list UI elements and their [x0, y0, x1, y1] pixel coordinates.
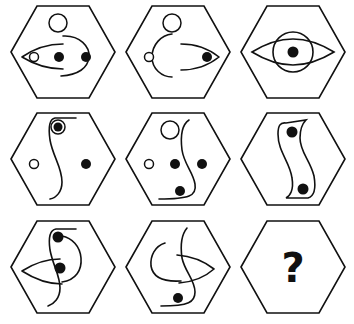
filled-dot-icon: [173, 293, 183, 303]
filled-dot-icon: [55, 263, 66, 274]
hexagon-cell-r2c1: [10, 112, 116, 207]
hexagon-cell-r3c2: [125, 220, 231, 315]
open-circle-icon: [161, 121, 179, 139]
filled-dot-icon: [287, 127, 298, 138]
hexagon-cell-r1c3: [240, 5, 346, 100]
small-open-circle-icon: [145, 53, 154, 62]
open-circle-icon: [163, 14, 181, 32]
filled-dot-icon: [54, 123, 63, 132]
hexagon-cell-r2c3: [240, 112, 346, 207]
hexagon-cell-r2c2: [125, 112, 231, 207]
question-mark-icon: ?: [240, 220, 346, 315]
filled-dot-icon: [54, 52, 64, 62]
hexagon-cell-r3c3-answer[interactable]: ?: [240, 220, 346, 315]
filled-dot-icon: [175, 186, 185, 196]
filled-dot-icon: [202, 52, 212, 62]
filled-dot-icon: [53, 232, 64, 243]
open-circle-icon: [49, 14, 67, 32]
hexagon-cell-r1c1: [10, 5, 116, 100]
filled-dot-icon: [298, 184, 309, 195]
small-open-circle-icon: [145, 160, 154, 169]
filled-dot-icon: [81, 159, 91, 169]
small-open-circle-icon: [30, 160, 39, 169]
filled-dot-icon: [197, 159, 207, 169]
hexagon-cell-r3c1: [10, 220, 116, 315]
hexagon-cell-r1c2: [125, 5, 231, 100]
filled-dot-icon: [170, 159, 180, 169]
filled-dot-icon: [81, 52, 91, 62]
small-open-circle-icon: [30, 53, 39, 62]
filled-dot-icon: [288, 47, 299, 58]
